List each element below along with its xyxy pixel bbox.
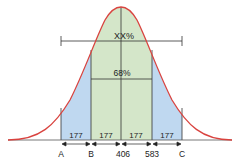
region-583-c: [152, 0, 182, 140]
x-tick-label-583: 583: [145, 149, 159, 159]
x-tick-label-a: A: [58, 149, 64, 159]
x-tick-label-b: B: [88, 149, 94, 159]
inner-percent-label: 68%: [113, 68, 130, 78]
band-arrows: [62, 142, 181, 146]
band-width-label: 177: [160, 131, 174, 140]
normal-distribution-chart: XX% 68% 177 177 177 177 A B 406 583 C: [0, 0, 241, 164]
band-width-label: 177: [129, 131, 143, 140]
x-tick-label-c: C: [179, 149, 185, 159]
band-width-label: 177: [99, 131, 113, 140]
band-width-label: 177: [69, 131, 83, 140]
x-tick-label-mean: 406: [116, 149, 130, 159]
outer-percent-label: XX%: [114, 31, 134, 41]
region-a-b: [61, 0, 91, 140]
